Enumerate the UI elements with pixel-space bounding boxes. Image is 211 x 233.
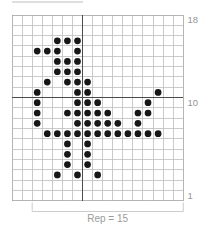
chart-dot [74, 37, 81, 44]
chart-dot [34, 48, 41, 55]
chart-dot [54, 48, 61, 55]
chart-dot [64, 151, 71, 158]
chart-dot [54, 172, 61, 179]
chart-dot [74, 48, 81, 55]
chart-dot [114, 120, 121, 127]
row-number-label: 18 [188, 14, 199, 25]
chart-dot [74, 68, 81, 75]
chart-dot [104, 130, 111, 137]
chart-dot [84, 161, 91, 168]
chart-dot [74, 89, 81, 96]
chart-dot [54, 37, 61, 44]
chart-dot [94, 120, 101, 127]
chart-dot [84, 120, 91, 127]
chart-dot [74, 79, 81, 86]
chart-dot [54, 68, 61, 75]
chart-dot [135, 120, 142, 127]
chart-dot [64, 79, 71, 86]
chart-dot [135, 130, 142, 137]
chart-dot [84, 99, 91, 106]
chart-dot [104, 120, 111, 127]
chart-dot [34, 89, 41, 96]
chart-dot [104, 110, 111, 117]
chart-dot [84, 79, 91, 86]
chart-dot [94, 130, 101, 137]
chart-dot [64, 130, 71, 137]
chart-dot [64, 37, 71, 44]
chart-dot [34, 110, 41, 117]
chart-dot [74, 99, 81, 106]
chart-dot [74, 130, 81, 137]
chart-dot [135, 110, 142, 117]
chart-dot [94, 99, 101, 106]
chart-dot [84, 141, 91, 148]
chart-dot [64, 141, 71, 148]
repeat-label: Rep = 15 [87, 213, 128, 224]
chart-dot [84, 110, 91, 117]
chart-dot [114, 130, 121, 137]
chart-dot [145, 130, 152, 137]
chart-dot [74, 172, 81, 179]
chart-dot [94, 172, 101, 179]
chart-dot [64, 68, 71, 75]
chart-dot [125, 130, 132, 137]
repeat-bracket [32, 203, 183, 212]
chart-dot [84, 151, 91, 158]
chart-dot [84, 89, 91, 96]
chart-dot [145, 110, 152, 117]
chart-dot [44, 79, 51, 86]
chart-dot [74, 110, 81, 117]
chart-dot [64, 58, 71, 65]
chart-dot [34, 120, 41, 127]
chart-dot [74, 58, 81, 65]
chart-dot [94, 110, 101, 117]
knitting-chart: 18101Rep = 15 [0, 0, 211, 233]
chart-dot [34, 99, 41, 106]
chart-dot [44, 130, 51, 137]
chart-dot [64, 161, 71, 168]
chart-dot [145, 99, 152, 106]
row-number-label: 10 [188, 97, 199, 108]
row-number-label: 1 [188, 190, 193, 201]
chart-dot [74, 120, 81, 127]
chart-dot [84, 130, 91, 137]
chart-dot [54, 130, 61, 137]
chart-dot [64, 110, 71, 117]
chart-dot [44, 48, 51, 55]
chart-dot [155, 89, 162, 96]
chart-dot [54, 58, 61, 65]
knitting-chart-page: 18101Rep = 15 [0, 0, 211, 233]
chart-dot [155, 130, 162, 137]
